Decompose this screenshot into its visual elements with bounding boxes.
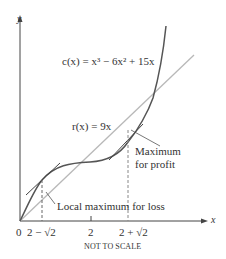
cost-curve-label: c(x) = x³ − 6x² + 15x (62, 55, 154, 67)
tick-label-2: 2 (88, 226, 94, 238)
not-to-scale-note: NOT TO SCALE (84, 241, 141, 253)
leader-local-max (46, 192, 55, 204)
revenue-line-label: r(x) = 9x (72, 120, 111, 132)
tick-label-0: 0 (16, 226, 22, 238)
max-profit-label-2: for profit (135, 158, 175, 170)
x-axis-arrow-icon (201, 219, 208, 224)
tick-label-2-plus-root2: 2 + √2 (119, 226, 148, 238)
tick-label-2-minus-root2: 2 − √2 (27, 226, 56, 238)
x-axis-label: x (211, 214, 215, 226)
diagram-canvas (0, 0, 226, 259)
revenue-line (20, 55, 194, 221)
local-max-loss-label: Local maximum for loss (57, 200, 165, 212)
tangent-loss (26, 163, 60, 195)
max-profit-label-1: Maximum (135, 145, 181, 157)
y-axis-label: y (17, 13, 21, 25)
leader-max-profit (131, 130, 160, 146)
